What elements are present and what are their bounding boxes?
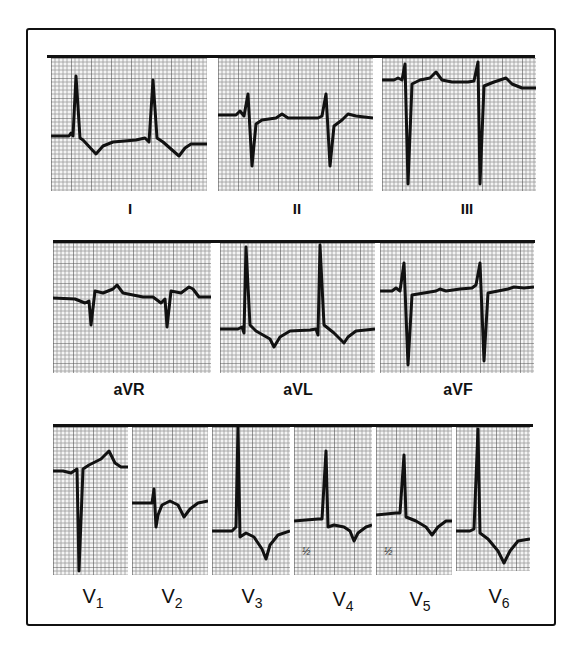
ecg-trace-V1 bbox=[53, 427, 128, 575]
ecg-trace-aVL bbox=[220, 243, 375, 373]
ecg-panel-I bbox=[51, 58, 207, 191]
lead-label-aVR: aVR bbox=[104, 381, 154, 399]
ecg-panel-V1 bbox=[53, 427, 128, 575]
ecg-panel-III bbox=[382, 58, 536, 191]
ecg-panel-II bbox=[218, 58, 373, 191]
ecg-trace-aVF bbox=[380, 243, 534, 373]
ecg-panel-V3 bbox=[212, 427, 290, 575]
ecg-panel-aVR bbox=[53, 243, 211, 373]
ecg-panel-aVL bbox=[220, 243, 375, 373]
lead-label-III: III bbox=[454, 200, 480, 217]
lead-label-I: I bbox=[120, 200, 140, 217]
lead-label-aVL: aVL bbox=[273, 381, 323, 399]
ecg-trace-aVR bbox=[53, 243, 211, 373]
ecg-trace-III bbox=[382, 58, 536, 191]
lead-label-II: II bbox=[285, 200, 309, 217]
half-gain-annotation-V5: ½ bbox=[384, 546, 392, 557]
ecg-trace-II bbox=[218, 58, 373, 191]
ecg-panel-V6 bbox=[456, 427, 530, 571]
lead-label-V5: V5 bbox=[405, 588, 435, 614]
lead-label-V1: V1 bbox=[78, 585, 108, 611]
lead-label-V2: V2 bbox=[157, 585, 187, 611]
ecg-trace-V6 bbox=[456, 427, 530, 571]
lead-label-V6: V6 bbox=[484, 585, 514, 611]
half-gain-annotation-V4: ½ bbox=[302, 546, 310, 557]
lead-label-V4: V4 bbox=[328, 588, 358, 614]
ecg-trace-I bbox=[51, 58, 207, 191]
lead-label-aVF: aVF bbox=[433, 381, 483, 399]
ecg-trace-V3 bbox=[212, 427, 290, 575]
ecg-trace-V2 bbox=[132, 427, 208, 575]
ecg-panel-aVF bbox=[380, 243, 534, 373]
lead-label-V3: V3 bbox=[237, 585, 267, 611]
ecg-panel-V2 bbox=[132, 427, 208, 575]
